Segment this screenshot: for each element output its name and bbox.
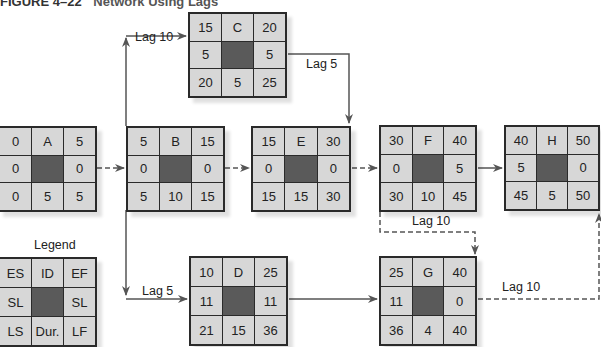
node-f-ls: 30 <box>381 183 412 210</box>
node-f-ef: 40 <box>444 127 475 154</box>
node-b-ef: 15 <box>192 128 223 155</box>
node-h-sl-right: 0 <box>568 155 598 182</box>
node-b-lf: 15 <box>192 183 223 210</box>
node-e-sl-left: 0 <box>253 156 284 183</box>
node-f-lf: 45 <box>444 183 475 210</box>
legend-id: ID <box>32 259 63 287</box>
legend-dur: Dur. <box>32 317 63 345</box>
node-e-sl-right: 0 <box>318 156 349 183</box>
node-d-sl-right: 11 <box>255 287 286 315</box>
node-f-dur: 10 <box>413 183 444 210</box>
activity-node-e: 15 E 30 0 0 15 15 30 <box>251 126 351 212</box>
legend-lf: LF <box>64 317 95 345</box>
node-a-dur: 5 <box>32 183 63 210</box>
node-h-lf: 50 <box>568 182 598 209</box>
activity-node-d: 10 D 25 11 11 21 15 36 <box>189 256 288 346</box>
node-h-center <box>537 155 567 182</box>
node-f-es: 30 <box>381 127 412 154</box>
node-b-dur: 10 <box>160 183 191 210</box>
node-e-center <box>285 156 316 183</box>
node-f-sl-left: 0 <box>381 155 412 182</box>
node-h-sl-left: 5 <box>506 155 536 182</box>
node-b-sl-left: 0 <box>128 156 159 183</box>
lag-label-g-h: Lag 10 <box>502 280 540 294</box>
activity-node-f: 30 F 40 0 5 30 10 45 <box>379 125 477 212</box>
node-h-ef: 50 <box>568 127 598 154</box>
node-g-ef: 40 <box>444 258 475 286</box>
node-f-center <box>413 155 444 182</box>
activity-node-a: 0 A 5 0 0 0 5 5 <box>0 126 97 212</box>
node-g-sl-right: 0 <box>444 287 475 315</box>
legend-ef: EF <box>64 259 95 287</box>
node-h-ls: 45 <box>506 182 536 209</box>
node-c-es: 15 <box>190 14 221 41</box>
node-h-es: 40 <box>506 127 536 154</box>
node-d-ls: 21 <box>191 316 222 344</box>
node-c-sl-left: 5 <box>190 42 221 69</box>
legend-sl-left: SL <box>0 288 31 316</box>
legend-es: ES <box>0 259 31 287</box>
node-d-id: D <box>223 258 254 286</box>
node-d-sl-left: 11 <box>191 287 222 315</box>
node-c-dur: 5 <box>222 69 253 96</box>
legend-sl-right: SL <box>64 288 95 316</box>
node-a-sl-left: 0 <box>0 156 31 183</box>
node-e-ef: 30 <box>318 128 349 155</box>
node-b-sl-right: 0 <box>192 156 223 183</box>
node-d-dur: 15 <box>223 316 254 344</box>
node-g-center <box>413 287 444 315</box>
node-g-id: G <box>413 258 444 286</box>
node-e-dur: 15 <box>285 183 316 210</box>
node-g-ls: 36 <box>381 316 412 344</box>
node-b-id: B <box>160 128 191 155</box>
node-b-ls: 5 <box>128 183 159 210</box>
node-c-ef: 20 <box>254 14 285 41</box>
node-b-es: 5 <box>128 128 159 155</box>
node-a-lf: 5 <box>64 183 95 210</box>
node-h-id: H <box>537 127 567 154</box>
node-f-id: F <box>413 127 444 154</box>
activity-node-c: 15 C 20 5 5 20 5 25 <box>188 12 287 98</box>
node-d-center <box>223 287 254 315</box>
node-c-sl-right: 5 <box>254 42 285 69</box>
node-b-center <box>160 156 191 183</box>
node-g-sl-left: 11 <box>381 287 412 315</box>
node-e-ls: 15 <box>253 183 284 210</box>
legend-node: ES ID EF SL SL LS Dur. LF <box>0 257 97 347</box>
node-g-es: 25 <box>381 258 412 286</box>
node-d-lf: 36 <box>255 316 286 344</box>
legend-ls: LS <box>0 317 31 345</box>
lag-label-f-g: Lag 10 <box>412 214 450 228</box>
activity-node-g: 25 G 40 11 0 36 4 40 <box>379 256 477 346</box>
legend-title: Legend <box>34 238 76 252</box>
node-c-ls: 20 <box>190 69 221 96</box>
node-c-id: C <box>222 14 253 41</box>
node-h-dur: 5 <box>537 182 567 209</box>
node-a-id: A <box>32 128 63 155</box>
node-a-center <box>32 156 63 183</box>
node-f-sl-right: 5 <box>444 155 475 182</box>
lag-label-b-d: Lag 5 <box>142 284 173 298</box>
node-e-id: E <box>285 128 316 155</box>
node-d-es: 10 <box>191 258 222 286</box>
legend-center <box>32 288 63 316</box>
node-d-ef: 25 <box>255 258 286 286</box>
node-e-es: 15 <box>253 128 284 155</box>
node-g-dur: 4 <box>413 316 444 344</box>
lag-label-c-e: Lag 5 <box>306 57 337 71</box>
activity-node-b: 5 B 15 0 0 5 10 15 <box>126 126 225 212</box>
node-c-lf: 25 <box>254 69 285 96</box>
activity-node-h: 40 H 50 5 0 45 5 50 <box>504 125 600 211</box>
node-a-es: 0 <box>0 128 31 155</box>
lag-label-b-c: Lag 10 <box>135 30 173 44</box>
node-a-ef: 5 <box>64 128 95 155</box>
node-a-ls: 0 <box>0 183 31 210</box>
node-g-lf: 40 <box>444 316 475 344</box>
node-a-sl-right: 0 <box>64 156 95 183</box>
node-e-lf: 30 <box>318 183 349 210</box>
node-c-center <box>222 42 253 69</box>
